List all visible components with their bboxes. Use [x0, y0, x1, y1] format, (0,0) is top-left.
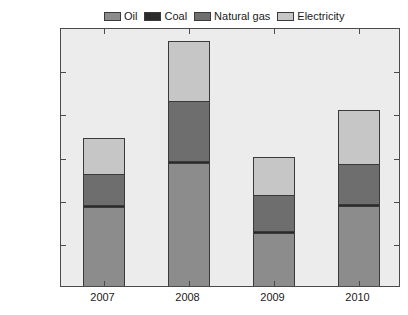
x-axis-tick-label: 2010 — [345, 291, 369, 303]
bar-2010[interactable] — [338, 110, 380, 286]
y-axis-tick-mark — [394, 115, 399, 116]
y-axis-tick-mark — [61, 245, 66, 246]
bar-segment-oil[interactable] — [168, 163, 210, 286]
x-axis-tick-label: 2009 — [260, 291, 284, 303]
bar-segment-natural-gas[interactable] — [168, 101, 210, 161]
y-axis-tick-mark — [394, 202, 399, 203]
x-axis-tick-mark — [104, 281, 105, 286]
chart-legend: OilCoalNatural gasElectricity — [104, 9, 344, 24]
bar-segment-natural-gas[interactable] — [83, 174, 125, 205]
bar-segment-electricity[interactable] — [253, 157, 295, 196]
bar-segment-natural-gas[interactable] — [253, 195, 295, 231]
x-axis-tick-mark — [104, 29, 105, 34]
legend-label: Natural gas — [214, 11, 270, 22]
y-axis-tick-mark — [61, 115, 66, 116]
bar-segment-electricity[interactable] — [83, 138, 125, 173]
legend-swatch-icon — [277, 12, 294, 21]
legend-label: Coal — [164, 11, 187, 22]
legend-swatch-icon — [144, 12, 161, 21]
bar-2007[interactable] — [83, 138, 125, 286]
legend-entry-electricity[interactable]: Electricity — [277, 11, 344, 22]
legend-entry-oil[interactable]: Oil — [104, 11, 137, 22]
bar-segment-electricity[interactable] — [338, 110, 380, 164]
legend-swatch-icon — [194, 12, 211, 21]
plot-area — [60, 28, 400, 287]
x-axis-tick-mark — [274, 281, 275, 286]
x-axis-tick-mark — [359, 281, 360, 286]
x-axis-tick-mark — [359, 29, 360, 34]
y-axis-tick-mark — [394, 72, 399, 73]
bar-segment-oil[interactable] — [253, 233, 295, 286]
x-axis-tick-label: 2008 — [175, 291, 199, 303]
legend-swatch-icon — [104, 12, 121, 21]
x-axis-tick-mark — [274, 29, 275, 34]
y-axis-tick-mark — [61, 72, 66, 73]
plot-inner — [61, 29, 399, 286]
legend-entry-coal[interactable]: Coal — [144, 11, 187, 22]
bar-2008[interactable] — [168, 41, 210, 286]
chart-figure: OilCoalNatural gasElectricity Billion do… — [0, 0, 408, 315]
y-axis-tick-mark — [394, 159, 399, 160]
y-axis-tick-mark — [61, 202, 66, 203]
x-axis-tick-mark — [189, 281, 190, 286]
legend-label: Electricity — [297, 11, 344, 22]
y-axis-tick-mark — [394, 245, 399, 246]
legend-label: Oil — [124, 11, 137, 22]
bar-2009[interactable] — [253, 157, 295, 286]
bar-segment-oil[interactable] — [338, 206, 380, 286]
bar-segment-natural-gas[interactable] — [338, 164, 380, 204]
legend-entry-natural-gas[interactable]: Natural gas — [194, 11, 270, 22]
bar-segment-oil[interactable] — [83, 207, 125, 286]
x-axis-tick-label: 2007 — [90, 291, 114, 303]
x-axis-tick-mark — [189, 29, 190, 34]
bar-segment-electricity[interactable] — [168, 41, 210, 101]
y-axis-tick-mark — [61, 159, 66, 160]
